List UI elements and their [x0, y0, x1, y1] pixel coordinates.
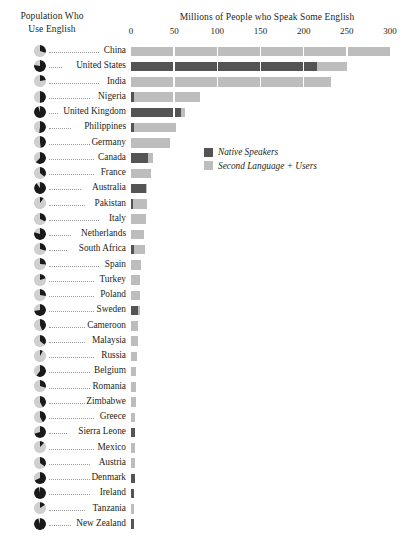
bar-tick-gap — [173, 77, 175, 87]
leader-dots — [49, 205, 85, 206]
population-share-pie-icon — [34, 350, 46, 362]
leader-dots — [49, 494, 90, 495]
population-share-pie-icon — [34, 319, 46, 331]
bar-tick-gap — [260, 62, 262, 72]
country-label: Denmark — [89, 472, 126, 483]
bar-segment-second — [131, 367, 136, 377]
bar-segment-second — [131, 138, 170, 148]
country-label: Pakistan — [92, 198, 126, 209]
population-share-pie-icon — [34, 304, 46, 316]
leader-dots — [49, 418, 94, 419]
leader-dots — [49, 327, 85, 328]
bar-segment-second — [131, 336, 138, 346]
chart-row: South Africa — [0, 242, 418, 257]
bar-segment-native — [131, 474, 135, 484]
population-share-pie-icon — [34, 182, 46, 194]
country-label: Zimbabwe — [84, 396, 126, 407]
leader-dots — [49, 98, 90, 99]
legend-swatch-native-icon — [204, 148, 213, 157]
bar-segment-second — [138, 306, 140, 316]
country-label: Canada — [96, 152, 126, 163]
country-label: United States — [74, 60, 126, 71]
bar-tick-gap — [260, 77, 262, 87]
x-axis-title: Millions of People who Speak Some Englis… — [131, 12, 403, 22]
population-share-pie-icon — [34, 426, 46, 438]
legend: Native Speakers Second Language + Users — [204, 146, 317, 173]
bar-segment-second — [131, 321, 138, 331]
x-axis-tick-250: 250 — [332, 26, 362, 36]
country-label: Cameroon — [85, 320, 126, 331]
leader-dots — [49, 128, 71, 129]
bar-segment-second — [131, 504, 134, 514]
country-label: Australia — [90, 182, 126, 193]
population-share-pie-icon — [34, 365, 46, 377]
bar-segment-second — [131, 214, 146, 224]
leader-dots — [49, 235, 71, 236]
country-label: Tanzania — [91, 503, 126, 514]
x-axis-tick-150: 150 — [246, 26, 276, 36]
bar-tick-gap — [346, 47, 348, 57]
chart-row: Austria — [0, 455, 418, 470]
bar-segment-second — [131, 352, 137, 362]
chart-row: Zimbabwe — [0, 394, 418, 409]
bar-segment-native — [131, 489, 134, 499]
chart-row: Turkey — [0, 272, 418, 287]
chart-row: Nigeria — [0, 89, 418, 104]
bar-segment-second — [131, 291, 140, 301]
leader-dots — [49, 525, 71, 526]
bar-tick-gap — [217, 77, 219, 87]
population-share-pie-icon — [34, 472, 46, 484]
leader-dots — [49, 189, 81, 190]
bar-segment-native — [131, 153, 148, 163]
leader-dots — [49, 403, 85, 404]
leader-dots — [49, 174, 94, 175]
bar-tick-gap — [303, 77, 305, 87]
country-label: Netherlands — [79, 228, 126, 239]
population-share-pie-icon — [34, 243, 46, 255]
leader-dots — [49, 83, 99, 84]
population-share-pie-icon — [34, 457, 46, 469]
leader-dots — [49, 342, 85, 343]
bar-segment-second — [131, 413, 135, 423]
population-share-pie-icon — [34, 136, 46, 148]
leader-dots — [49, 220, 99, 221]
bar-tick-gap — [217, 62, 219, 72]
population-share-pie-icon — [34, 45, 46, 57]
chart-row: Italy — [0, 211, 418, 226]
country-label: Greece — [98, 411, 126, 422]
leader-dots — [49, 464, 90, 465]
bar-segment-native — [131, 62, 317, 72]
population-share-pie-icon — [34, 228, 46, 240]
chart-row: Sweden — [0, 303, 418, 318]
population-share-pie-icon — [34, 152, 46, 164]
x-axis-tick-300: 300 — [375, 26, 405, 36]
population-share-pie-icon — [34, 167, 46, 179]
population-share-pie-icon — [34, 335, 46, 347]
leader-dots — [49, 479, 90, 480]
population-share-pie-icon — [34, 487, 46, 499]
chart-row: Australia — [0, 181, 418, 196]
chart-row: Netherlands — [0, 227, 418, 242]
leader-dots — [49, 510, 85, 511]
country-label: New Zealand — [74, 518, 126, 529]
country-label: Ireland — [98, 487, 126, 498]
x-axis-tick-0: 0 — [116, 26, 146, 36]
bar-segment-second — [131, 382, 136, 392]
country-label: Belgium — [92, 365, 126, 376]
population-share-pie-icon — [34, 106, 46, 118]
population-share-pie-icon — [34, 121, 46, 133]
leader-dots — [49, 266, 99, 267]
bar-segment-second — [148, 153, 152, 163]
bar-segment-second — [131, 77, 331, 87]
bar-segment-second — [131, 260, 141, 270]
chart-row: Mexico — [0, 440, 418, 455]
country-label: Russia — [99, 350, 126, 361]
country-label: China — [102, 45, 126, 56]
country-label: United Kingdom — [61, 106, 126, 117]
chart-row: China — [0, 44, 418, 59]
bar-segment-second — [317, 62, 347, 72]
leader-dots — [49, 113, 58, 114]
bar-tick-gap — [173, 92, 175, 102]
bar-tick-gap — [303, 62, 305, 72]
country-label: Italy — [107, 213, 126, 224]
